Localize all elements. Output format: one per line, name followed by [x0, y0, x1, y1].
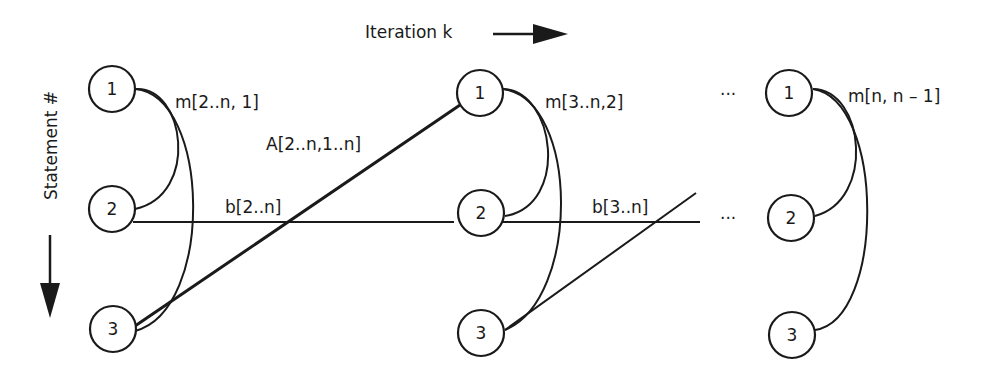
iteration-axis-label: Iteration k — [365, 22, 453, 42]
iteration-arrow-icon — [493, 24, 568, 44]
svg-text:3: 3 — [787, 325, 798, 345]
svg-text:2: 2 — [476, 203, 487, 223]
iteration-3-edges — [813, 89, 867, 330]
iteration-2-node-3: 3 — [458, 310, 504, 356]
iteration-2-node-2: 2 — [458, 190, 504, 236]
flow-label-b-3n: b[3..n] — [592, 197, 648, 217]
iteration-3-node-3: 3 — [769, 312, 815, 358]
iteration-1-node-1: 1 — [89, 66, 135, 112]
svg-text:1: 1 — [475, 83, 486, 103]
svg-text:3: 3 — [108, 319, 119, 339]
statement-arrow-icon — [40, 235, 60, 318]
svg-text:2: 2 — [107, 199, 118, 219]
svg-text:2: 2 — [786, 208, 797, 228]
iteration-1-edges — [133, 89, 460, 331]
iteration-1-node-2: 2 — [89, 186, 135, 232]
iteration-3-node-2: 2 — [768, 195, 814, 241]
svg-text:1: 1 — [784, 83, 795, 103]
flow-label-b-2n: b[2..n] — [225, 197, 281, 217]
iteration-1-node-3: 3 — [90, 306, 136, 352]
ellipsis-row-2: ··· — [720, 208, 736, 228]
svg-text:3: 3 — [476, 323, 487, 343]
ellipsis-row-1: ··· — [720, 84, 736, 104]
cross-label-A: A[2..n,1..n] — [266, 134, 361, 154]
iteration-2-node-1: 1 — [457, 70, 503, 116]
statement-axis-label: Statement # — [41, 91, 61, 200]
dependence-label-m-3n-2: m[3..n,2] — [545, 92, 623, 112]
svg-text:1: 1 — [107, 79, 118, 99]
iteration-3-node-1: 1 — [766, 70, 812, 116]
dependence-label-m-n-n1: m[n, n – 1] — [848, 86, 940, 106]
dependence-label-m-2n-1: m[2..n, 1] — [175, 92, 259, 112]
dependence-diagram: Iteration k Statement # m[2..n, 1] A[2..… — [0, 0, 994, 385]
